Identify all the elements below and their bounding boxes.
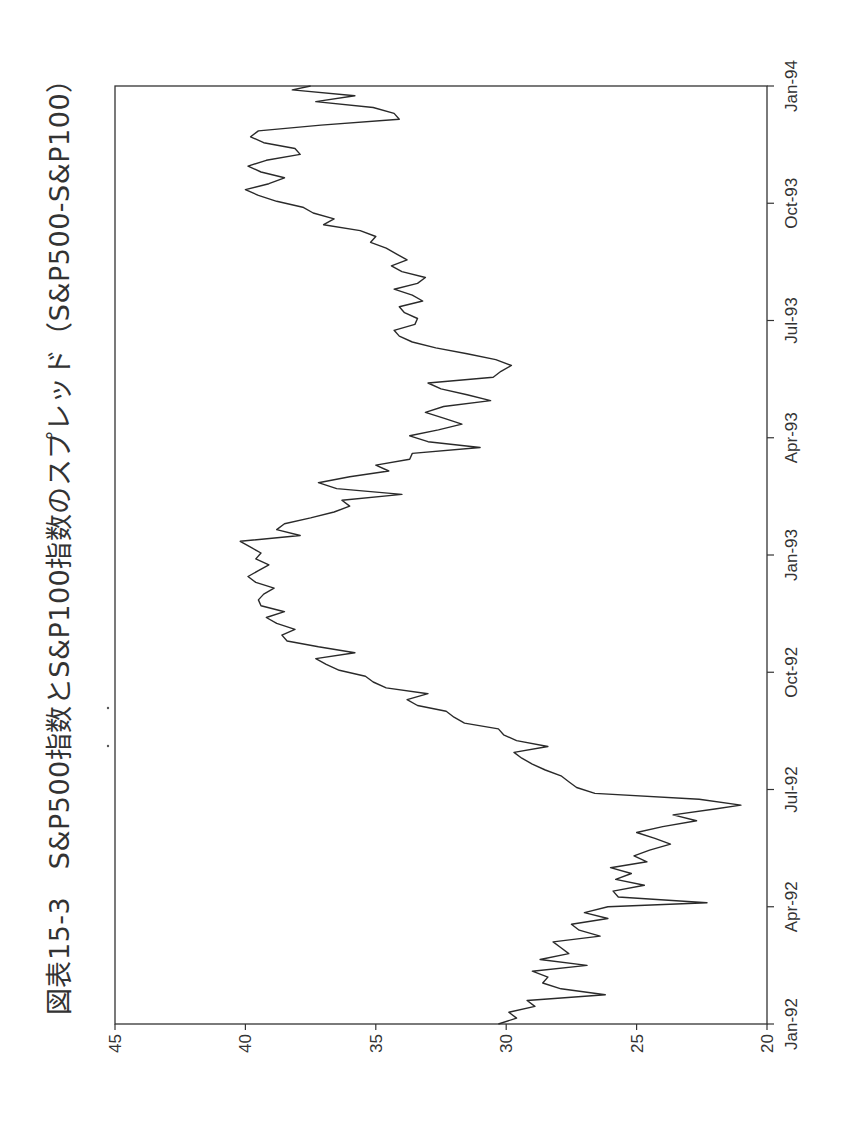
spread-series-line [240, 86, 741, 1024]
value-tick-label: 45 [106, 1034, 125, 1053]
scan-speck [107, 707, 109, 709]
date-tick-label: Jan-94 [782, 60, 801, 112]
date-tick-label: Apr-92 [782, 881, 801, 932]
date-tick-label: Oct-92 [782, 647, 801, 698]
value-tick-label: 30 [497, 1034, 516, 1053]
date-tick-label: Jan-93 [782, 529, 801, 581]
value-axis-ticks: 202530354045 [106, 1024, 777, 1053]
date-tick-label: Jan-92 [782, 998, 801, 1050]
value-tick-label: 40 [236, 1034, 255, 1053]
date-axis-ticks: Jan-92Apr-92Jul-92Oct-92Jan-93Apr-93Jul-… [767, 60, 801, 1050]
date-tick-label: Oct-93 [782, 178, 801, 229]
value-tick-label: 20 [758, 1034, 777, 1053]
date-tick-label: Jul-93 [782, 297, 801, 343]
value-tick-label: 35 [367, 1034, 386, 1053]
scan-speck [107, 745, 109, 747]
plot-frame [115, 86, 767, 1024]
value-tick-label: 25 [628, 1034, 647, 1053]
date-tick-label: Jul-92 [782, 766, 801, 812]
date-tick-label: Apr-93 [782, 412, 801, 463]
line-chart: 202530354045 Jan-92Apr-92Jul-92Oct-92Jan… [0, 0, 844, 1133]
